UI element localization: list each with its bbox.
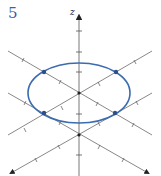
y-axis (8, 93, 148, 173)
origin-point (77, 133, 80, 136)
diagram-canvas (0, 0, 161, 176)
upper-center-point (77, 91, 80, 94)
3d-axes-figure: 5 z (0, 0, 161, 176)
